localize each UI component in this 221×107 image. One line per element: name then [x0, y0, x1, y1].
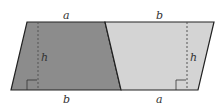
label-bottom-left: b: [63, 93, 70, 106]
parallelogram-diagram: a b b a h h: [0, 0, 221, 107]
label-height-right: h: [190, 51, 197, 64]
label-top-right: b: [156, 9, 163, 22]
label-height-left: h: [41, 51, 48, 64]
right-trapezoid: [105, 22, 214, 90]
label-top-left: a: [63, 9, 70, 22]
label-bottom-right: a: [156, 93, 163, 106]
